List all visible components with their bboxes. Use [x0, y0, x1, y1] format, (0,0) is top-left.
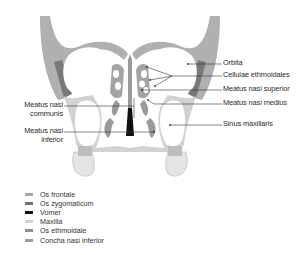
label-meatus-nasi-inferior: Meatus nasi inferior — [24, 127, 63, 144]
label-meatus-nasi-superior: Meatus nasi superior — [223, 85, 290, 94]
legend-swatch-os-ethmoidale — [25, 229, 33, 232]
legend-item-os-zygomaticum: Os zygomaticum — [25, 199, 104, 208]
legend-swatch-os-zygomaticum — [25, 202, 33, 205]
legend-item-maxilla: Maxilla — [25, 217, 104, 226]
legend-item-concha-nasi-inferior: Concha nasi inferior — [25, 235, 104, 244]
legend-swatch-maxilla — [25, 220, 33, 223]
label-meatus-nasi-inferior-line2: inferior — [24, 136, 63, 145]
legend-swatch-vomer — [25, 211, 33, 214]
legend-item-os-frontale: Os frontale — [25, 190, 104, 199]
legend: Os frontale Os zygomaticum Vomer Maxilla… — [25, 190, 104, 245]
label-cellulae-ethmoidales: Cellulae ethmoidales — [223, 71, 290, 80]
legend-label: Vomer — [40, 208, 61, 217]
label-meatus-nasi-communis: Meatus nasi communis — [24, 101, 63, 118]
legend-item-vomer: Vomer — [25, 208, 104, 217]
label-meatus-nasi-medius: Meatus nasi medius — [223, 99, 287, 108]
legend-label: Os ethmoidale — [40, 226, 86, 235]
perpendicular-plate — [128, 60, 132, 110]
label-sinus-maxillaris: Sinus maxillaris — [223, 120, 273, 129]
legend-label: Os zygomaticum — [40, 199, 94, 208]
legend-label: Maxilla — [40, 217, 62, 226]
legend-label: Concha nasi inferior — [40, 236, 104, 245]
legend-label: Os frontale — [40, 190, 75, 199]
diagram-canvas: Orbita Cellulae ethmoidales Meatus nasi … — [0, 0, 305, 255]
legend-item-os-ethmoidale: Os ethmoidale — [25, 226, 104, 235]
legend-swatch-concha-nasi-inferior — [25, 239, 33, 242]
label-meatus-nasi-communis-line2: communis — [24, 110, 63, 119]
label-orbita: Orbita — [223, 59, 243, 68]
legend-swatch-os-frontale — [25, 193, 33, 196]
